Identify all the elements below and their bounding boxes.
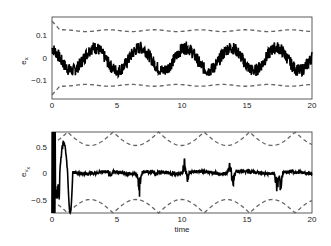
top-xtick-2: 10 [178, 101, 187, 110]
top-ytick-0: 0.1 [36, 31, 48, 40]
top-xtick-4: 20 [308, 101, 317, 110]
bottom-ylabel: evx [19, 167, 31, 177]
svg-text:evx: evx [19, 167, 31, 177]
top-plot-frame [52, 17, 312, 99]
bottom-ytick-1: 0 [43, 169, 48, 178]
top-ytick-2: −0.1 [31, 76, 47, 85]
bottom-xtick-3: 15 [243, 215, 252, 224]
top-ylabel: ex [19, 57, 29, 64]
top-xtick-3: 15 [243, 101, 252, 110]
top-plot: 0.1 0 −0.1 0 5 10 15 20 ex [19, 17, 317, 110]
bottom-xtick-2: 10 [178, 215, 187, 224]
top-xtick-1: 5 [115, 101, 120, 110]
bottom-xlabel: time [174, 225, 190, 234]
figure: 0.1 0 −0.1 0 5 10 15 20 ex 0.5 0 −0.5 0 … [0, 0, 331, 246]
svg-text:ex: ex [19, 57, 29, 64]
bottom-xtick-1: 5 [115, 215, 120, 224]
bottom-xtick-0: 0 [50, 215, 55, 224]
top-xtick-0: 0 [50, 101, 55, 110]
bottom-xtick-4: 20 [308, 215, 317, 224]
bottom-plot: 0.5 0 −0.5 0 5 10 15 20 time evx [19, 132, 317, 234]
bottom-ytick-0: 0.5 [36, 143, 48, 152]
top-ytick-1: 0 [43, 54, 48, 63]
bottom-ytick-2: −0.5 [31, 196, 47, 205]
